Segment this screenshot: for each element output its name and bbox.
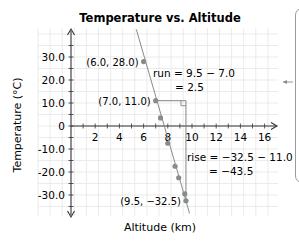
rise-annotation-line1: rise = −32.5 − 11.0 (187, 151, 293, 163)
data-point (165, 141, 170, 146)
temperature-altitude-chart: 24681012141630.020.010.00-10.0-20.0-30.0… (0, 0, 299, 247)
chart-grid (38, 28, 278, 216)
y-tick-label: 10.0 (42, 97, 65, 109)
y-tick-label: -10.0 (38, 143, 65, 155)
x-tick-label: 2 (92, 131, 99, 143)
run-annotation-line2: = 2.5 (175, 81, 204, 93)
point-label: (9.5, −32.5) (120, 196, 181, 207)
x-tick-label: 12 (210, 131, 223, 143)
y-tick-label: 20.0 (42, 74, 65, 86)
data-point (183, 198, 188, 203)
point-label: (7.0, 11.0) (98, 96, 150, 107)
y-axis-label: Temperature (°C) (11, 78, 24, 174)
x-tick-label: 10 (185, 131, 198, 143)
x-axis-label: Altitude (km) (124, 221, 196, 234)
data-point (141, 59, 146, 64)
data-point (182, 191, 187, 196)
y-tick-label: -30.0 (38, 189, 65, 201)
run-annotation-line1: run = 9.5 − 7.0 (153, 67, 235, 79)
x-tick-label: 14 (234, 131, 248, 143)
chart-title: Temperature vs. Altitude (79, 11, 241, 25)
arrow-left-icon (283, 80, 287, 84)
x-tick-label: 16 (258, 131, 272, 143)
data-point (153, 98, 158, 103)
point-label: (6.0, 28.0) (86, 57, 138, 68)
rise-annotation-line2: = −43.5 (209, 165, 253, 177)
callout-panel (295, 8, 299, 183)
x-tick-label: 6 (140, 131, 147, 143)
data-point (158, 115, 163, 120)
data-point (176, 175, 181, 180)
callout-arrow (283, 80, 293, 84)
data-point (172, 164, 177, 169)
x-tick-label: 4 (116, 131, 123, 143)
y-tick-label: 0 (58, 120, 65, 132)
y-tick-label: 30.0 (42, 51, 65, 63)
y-tick-label: -20.0 (38, 166, 65, 178)
